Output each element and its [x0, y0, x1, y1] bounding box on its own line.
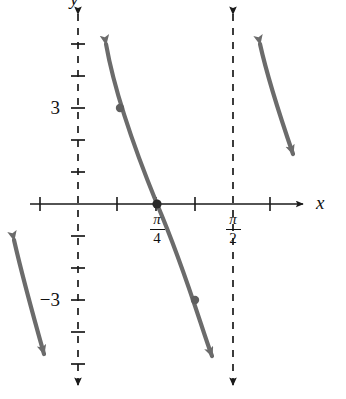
x-tick-label-pi-over-2: π 2 [213, 212, 253, 247]
math-graph-figure: x y 3 −3 π 4 π 2 [0, 0, 346, 399]
y-axis-asymptote [71, 14, 85, 385]
point-3pi-over-8 [191, 296, 199, 304]
y-axis-label: y [70, 0, 78, 8]
x-axis-label: x [316, 193, 324, 212]
y-tick-label-neg-3: −3 [14, 290, 60, 309]
point-pi-over-4-zero [152, 199, 161, 208]
x-axis [30, 197, 303, 211]
y-tick-label-3: 3 [24, 98, 60, 117]
fraction-denominator: 4 [137, 230, 177, 247]
fraction-numerator: π [213, 212, 253, 229]
x-tick-label-pi-over-4: π 4 [137, 212, 177, 247]
plot-canvas [0, 0, 346, 399]
curve-branch-right [260, 44, 293, 154]
fraction-numerator: π [137, 212, 177, 229]
fraction-denominator: 2 [213, 230, 253, 247]
point-pi-over-8 [116, 104, 124, 112]
